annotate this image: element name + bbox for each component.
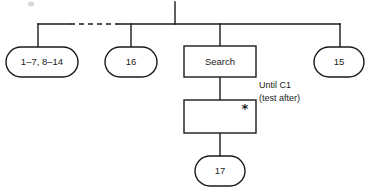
node-17-label: 17 [215,165,226,176]
annotation-line-1: Until C1 [259,80,291,90]
node-16-label: 16 [126,56,137,67]
diagram-canvas: 1–7, 8–14 16 Search 15 * Until C1 (test … [0,0,368,193]
scan-artifact [28,2,34,7]
annotation-line-2: (test after) [259,93,300,103]
node-range-label: 1–7, 8–14 [21,56,63,67]
tree-diagram: 1–7, 8–14 16 Search 15 * Until C1 (test … [0,0,368,193]
node-15-label: 15 [334,56,345,67]
asterisk-icon: * [242,101,249,116]
node-search-label: Search [205,56,235,67]
